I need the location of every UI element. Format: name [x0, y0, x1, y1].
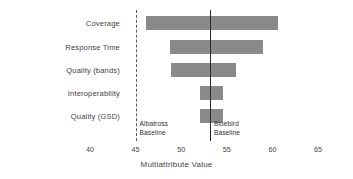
x-tick-label: 50	[177, 145, 185, 154]
albatross-baseline-label-line1: Albatross	[140, 120, 168, 128]
bluebird-baseline-line	[210, 10, 211, 141]
tornado-chart: Coverage Response Time Quality (bands) I…	[0, 0, 353, 179]
plot-area	[0, 10, 353, 128]
bar-interoperability	[200, 86, 223, 100]
bluebird-baseline-label-line2: Baseline	[214, 129, 240, 137]
x-tick-label: 45	[132, 145, 140, 154]
x-axis-title: Multiattribute Value	[0, 160, 353, 169]
x-tick-label: 40	[86, 145, 94, 154]
bluebird-baseline-label-line1: Bluebird	[214, 120, 239, 128]
bar-response-time	[170, 40, 263, 54]
x-tick-label: 60	[268, 145, 276, 154]
albatross-baseline-line	[136, 10, 137, 141]
bar-quality-bands	[171, 63, 236, 77]
x-tick-label: 65	[314, 145, 322, 154]
x-axis: 40 45 50 55 60 65	[86, 143, 326, 144]
bar-coverage	[146, 16, 278, 30]
albatross-baseline-label-line2: Baseline	[140, 129, 166, 137]
x-tick-label: 55	[223, 145, 231, 154]
